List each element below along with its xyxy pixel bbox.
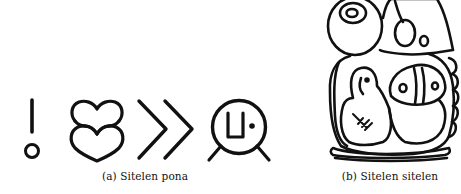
double-heart-glyph-icon	[66, 96, 128, 164]
exclamation-glyph-icon	[12, 95, 52, 165]
subfigure-b: (b) Sitelen sitelen	[300, 0, 461, 194]
caption-sitelen-pona: (a) Sitelen pona	[102, 170, 188, 182]
caption-sitelen-sitelen: (b) Sitelen sitelen	[342, 170, 438, 182]
circle-face-glyph-icon	[204, 96, 274, 164]
sitelen-sitelen-block-glyph-icon	[325, 0, 460, 164]
double-chevron-glyph-icon	[133, 97, 199, 163]
subfigure-a: (a) Sitelen pona	[0, 0, 300, 194]
